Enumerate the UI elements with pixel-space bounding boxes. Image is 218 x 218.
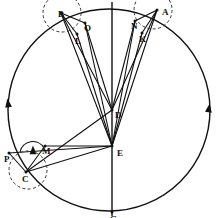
- point-d: [111, 109, 114, 112]
- label-d: D: [115, 110, 122, 120]
- line-e-to-l: [77, 34, 112, 146]
- main-circle: [8, 9, 210, 211]
- point-g: [111, 211, 114, 214]
- label-b: B: [58, 9, 64, 19]
- point-l: [76, 33, 79, 36]
- points-layer: [8, 9, 159, 214]
- label-n: N: [131, 21, 138, 31]
- deferent-layer: [8, 9, 210, 211]
- point-e: [111, 145, 114, 148]
- label-o: O: [84, 23, 91, 33]
- diagram-canvas: ABCDEGKLMNOP: [0, 0, 218, 218]
- label-a: A: [162, 7, 169, 17]
- astronomy-epicycle-diagram: ABCDEGKLMNOP: [0, 0, 218, 218]
- label-k: K: [139, 34, 146, 44]
- deferent-arrow-right: [205, 103, 213, 113]
- line-d-to-c: [26, 110, 112, 172]
- epicycle-arrow-c: [30, 145, 37, 154]
- line-e-to-c: [26, 146, 112, 172]
- segments-layer: [9, 10, 157, 172]
- epicycle-arrow-c-head: [30, 145, 37, 154]
- label-c: C: [22, 174, 29, 184]
- label-g: G: [110, 214, 117, 218]
- point-c: [25, 171, 28, 174]
- label-m: M: [42, 146, 51, 156]
- label-p: P: [4, 154, 10, 164]
- point-a: [156, 9, 159, 12]
- label-l: L: [75, 36, 81, 46]
- deferent-arrow-right-head: [205, 103, 213, 113]
- point-labels-layer: ABCDEGKLMNOP: [4, 7, 169, 218]
- label-e: E: [117, 148, 123, 158]
